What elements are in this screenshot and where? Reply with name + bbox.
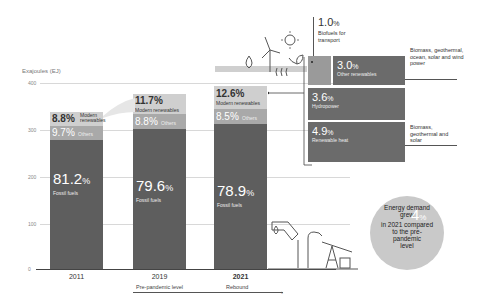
breakdown-connector bbox=[268, 55, 313, 167]
fuel-pump-and-oil-rig-icon bbox=[268, 218, 358, 270]
x-label-2021: 2021 bbox=[214, 273, 267, 280]
y-tick-200: 200 bbox=[28, 174, 40, 180]
segment-modern-renewables: 8.8% Modern renewables bbox=[50, 112, 103, 126]
segment-modern-renewables: 11.7% Modern renewables bbox=[133, 94, 186, 114]
bar-2021: 12.6% Modern renewables 8.5% Others 78.9… bbox=[214, 86, 267, 269]
segment-others: 8.8% Others bbox=[133, 114, 186, 129]
energy-demand-callout: Energy demand grew 4% in 2021 compared t… bbox=[370, 196, 444, 270]
biofuels-label: Biofuels for transport bbox=[318, 30, 358, 43]
growth-value: 4% bbox=[411, 206, 426, 223]
y-tick-100: 100 bbox=[28, 221, 40, 227]
renewable-heat-box: 4.9% Renewable heat bbox=[308, 122, 405, 162]
bar-2019: 11.7% Modern renewables 8.8% Others 79.6… bbox=[133, 94, 186, 269]
pre-pandemic-label: Pre-pandemic level bbox=[136, 284, 183, 290]
bar-2011: 8.8% Modern renewables 9.7% Others 81.2%… bbox=[50, 112, 103, 269]
rebound-label: Rebound bbox=[226, 284, 248, 290]
biofuels-leader-line bbox=[313, 17, 314, 57]
segment-others: 9.7% Others bbox=[50, 126, 103, 140]
segment-others: 8.5% Others bbox=[214, 109, 267, 124]
marker-dot bbox=[311, 61, 313, 63]
y-axis-label: Exajoules (EJ) bbox=[22, 68, 61, 74]
heat-note-line bbox=[405, 145, 457, 146]
segment-fossil-fuels: 78.9% Fossil fuels bbox=[214, 124, 267, 269]
renewable-heat-note: Biomass, geothermal and solar bbox=[410, 124, 460, 144]
other-renewables-note: Biomass, geothermal, ocean, solar and wi… bbox=[410, 47, 470, 67]
segment-modern-renewables: 12.6% Modern renewables bbox=[214, 86, 267, 109]
segment-fossil-fuels: 79.6% Fossil fuels bbox=[133, 129, 186, 269]
biofuels-box bbox=[308, 56, 331, 85]
y-tick-300: 300 bbox=[28, 127, 40, 133]
other-renewables-box: 3.0% Other renewables bbox=[333, 56, 405, 85]
hydropower-box: 3.6% Hydropower bbox=[308, 88, 405, 120]
timeline-arrow bbox=[133, 292, 283, 293]
arrow-head-icon: › bbox=[281, 289, 283, 295]
segment-fossil-fuels: 81.2% Fossil fuels bbox=[50, 140, 103, 269]
biofuels-pct: 1.0% bbox=[318, 16, 340, 28]
x-label-2019: 2019 bbox=[133, 273, 186, 280]
trend-swoosh bbox=[103, 98, 135, 118]
x-label-2011: 2011 bbox=[50, 273, 103, 280]
y-tick-400: 400 bbox=[28, 80, 40, 86]
other-note-line bbox=[405, 79, 457, 80]
